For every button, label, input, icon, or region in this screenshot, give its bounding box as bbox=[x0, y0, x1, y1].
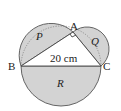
label-b: B bbox=[8, 60, 15, 72]
label-side-bc: 20 cm bbox=[50, 52, 78, 64]
label-c: C bbox=[103, 60, 110, 72]
label-r: R bbox=[56, 77, 64, 89]
geometry-figure: A B C P Q R 20 cm bbox=[0, 0, 121, 111]
label-q: Q bbox=[91, 35, 99, 47]
label-a: A bbox=[70, 20, 78, 32]
label-p: P bbox=[35, 30, 43, 42]
